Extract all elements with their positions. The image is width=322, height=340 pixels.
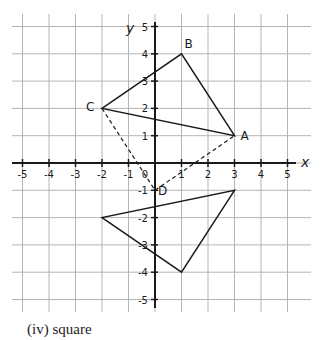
caption: (iv) square — [27, 321, 92, 338]
y-tick-label: -5 — [138, 295, 148, 306]
coordinate-grid-diagram: -5-4-3-2-11234554321-1-2-3-4-50xyABCD — [0, 0, 322, 320]
y-tick-label: 2 — [142, 103, 148, 114]
x-tick-label: -3 — [71, 169, 81, 180]
x-tick-label: 2 — [205, 169, 211, 180]
reflected-triangle — [102, 190, 235, 272]
x-tick-label: -5 — [18, 169, 28, 180]
triangle-abc — [102, 54, 235, 136]
x-tick-label: 3 — [231, 169, 237, 180]
x-tick-label: -2 — [97, 169, 107, 180]
y-axis-label: y — [125, 20, 135, 36]
point-label-d: D — [158, 184, 167, 198]
y-tick-label: -2 — [138, 213, 148, 224]
y-tick-label: 5 — [142, 22, 148, 33]
x-tick-label: 4 — [258, 169, 264, 180]
x-tick-label: 5 — [284, 169, 290, 180]
x-tick-label: -4 — [44, 169, 54, 180]
y-tick-label: 4 — [142, 49, 148, 60]
y-tick-label: 1 — [142, 131, 148, 142]
point-label-b: B — [185, 37, 193, 51]
x-tick-label: -1 — [124, 169, 134, 180]
y-tick-label: -4 — [138, 267, 148, 278]
y-tick-label: -1 — [138, 185, 148, 196]
x-tick-label: 1 — [178, 169, 184, 180]
x-axis-label: x — [300, 154, 310, 170]
point-label-c: C — [86, 100, 94, 114]
point-label-a: A — [241, 129, 250, 143]
